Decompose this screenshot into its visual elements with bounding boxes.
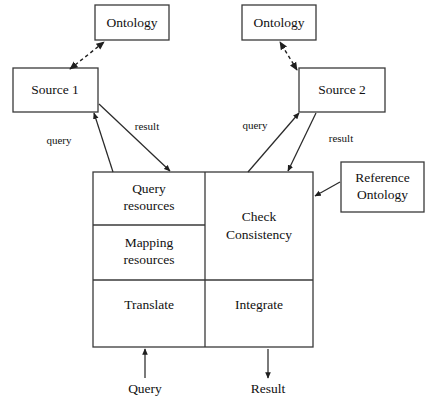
diagram-svg: Ontology Ontology Source 1 Source 2 Refe… (0, 0, 434, 402)
diagram-canvas: Ontology Ontology Source 1 Source 2 Refe… (0, 0, 434, 402)
edge-label-result-left: result (135, 120, 159, 132)
arrow-reference-ontology-to-mediator (315, 182, 340, 196)
io-label-query-input: Query (128, 381, 162, 396)
box-ontology-right-label: Ontology (253, 15, 304, 30)
cell-check-consistency-line2: Consistency (226, 227, 292, 242)
edge-label-result-right: result (329, 132, 353, 144)
edge-label-query-left: query (46, 134, 72, 146)
dashed-arrow-source2-ontology (280, 42, 297, 70)
box-source-1-label: Source 1 (31, 82, 79, 97)
edge-label-query-right: query (242, 119, 268, 131)
dashed-arrow-source1-ontology (70, 42, 104, 69)
cell-mapping-resources-line1: Mapping (125, 235, 174, 250)
box-reference-ontology-label-line1: Reference (355, 170, 410, 185)
box-reference-ontology-label-line2: Ontology (357, 187, 408, 202)
cell-translate-label: Translate (124, 297, 174, 312)
arrow-query-left (94, 113, 113, 172)
cell-integrate-label: Integrate (235, 297, 283, 312)
box-source-2-label: Source 2 (318, 82, 366, 97)
cell-query-resources-line2: resources (124, 198, 175, 213)
cell-query-resources-line1: Query (132, 181, 166, 196)
cell-mapping-resources-line2: resources (124, 252, 175, 267)
io-label-result-output: Result (251, 381, 286, 396)
box-ontology-left-label: Ontology (106, 15, 157, 30)
cell-check-consistency-line1: Check (242, 209, 277, 224)
